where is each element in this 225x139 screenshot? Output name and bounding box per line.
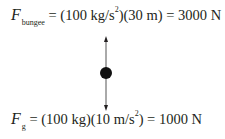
mass-dot-icon <box>100 67 112 79</box>
force-symbol: F <box>11 110 21 127</box>
equation-part: = (100 kg)(10 m/s <box>26 111 135 127</box>
gravity-force-equation: Fg = (100 kg)(10 m/s2) = 1000 N <box>11 110 202 128</box>
equation-part: ) = 1000 N <box>139 111 202 127</box>
arrow-up-icon <box>104 36 108 42</box>
exponent: 2 <box>135 109 139 118</box>
force-subscript: g <box>22 122 26 131</box>
